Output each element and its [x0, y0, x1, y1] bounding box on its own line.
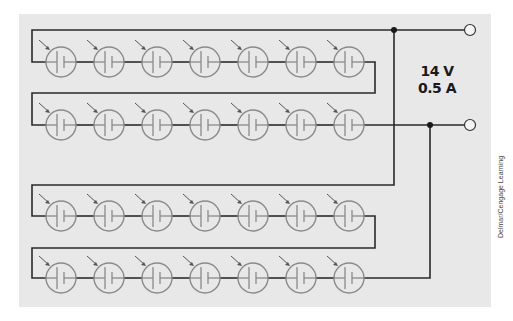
- junction-dot-bottom: [427, 122, 433, 128]
- junction-dot-top: [391, 27, 397, 33]
- supply-rating: 14 V 0.5 A: [412, 63, 462, 97]
- circuit-diagram: [0, 0, 513, 321]
- current-label: 0.5 A: [412, 80, 462, 97]
- voltage-label: 14 V: [412, 63, 462, 80]
- terminal-positive-icon[interactable]: [465, 25, 476, 36]
- terminal-negative-icon[interactable]: [465, 120, 476, 131]
- credit-text: Delmar/Cengage Learning: [497, 156, 504, 238]
